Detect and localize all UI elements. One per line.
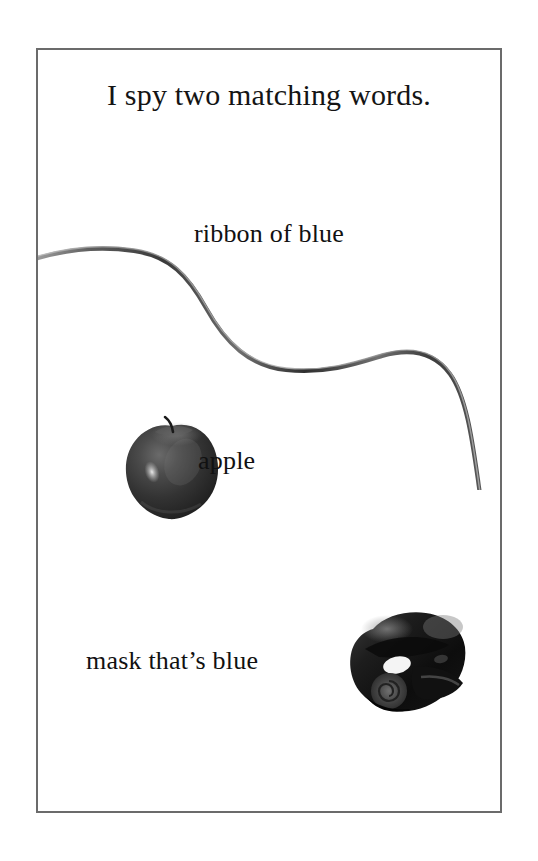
content-frame: I spy two matching words. — [36, 48, 502, 813]
ribbon-image — [38, 150, 502, 490]
page-title: I spy two matching words. — [38, 80, 500, 110]
item-label-apple: apple — [198, 448, 255, 474]
mask-image — [343, 605, 469, 717]
item-label-ribbon: ribbon of blue — [38, 221, 500, 247]
page-canvas: I spy two matching words. — [0, 0, 538, 861]
item-label-mask: mask that’s blue — [86, 648, 258, 674]
